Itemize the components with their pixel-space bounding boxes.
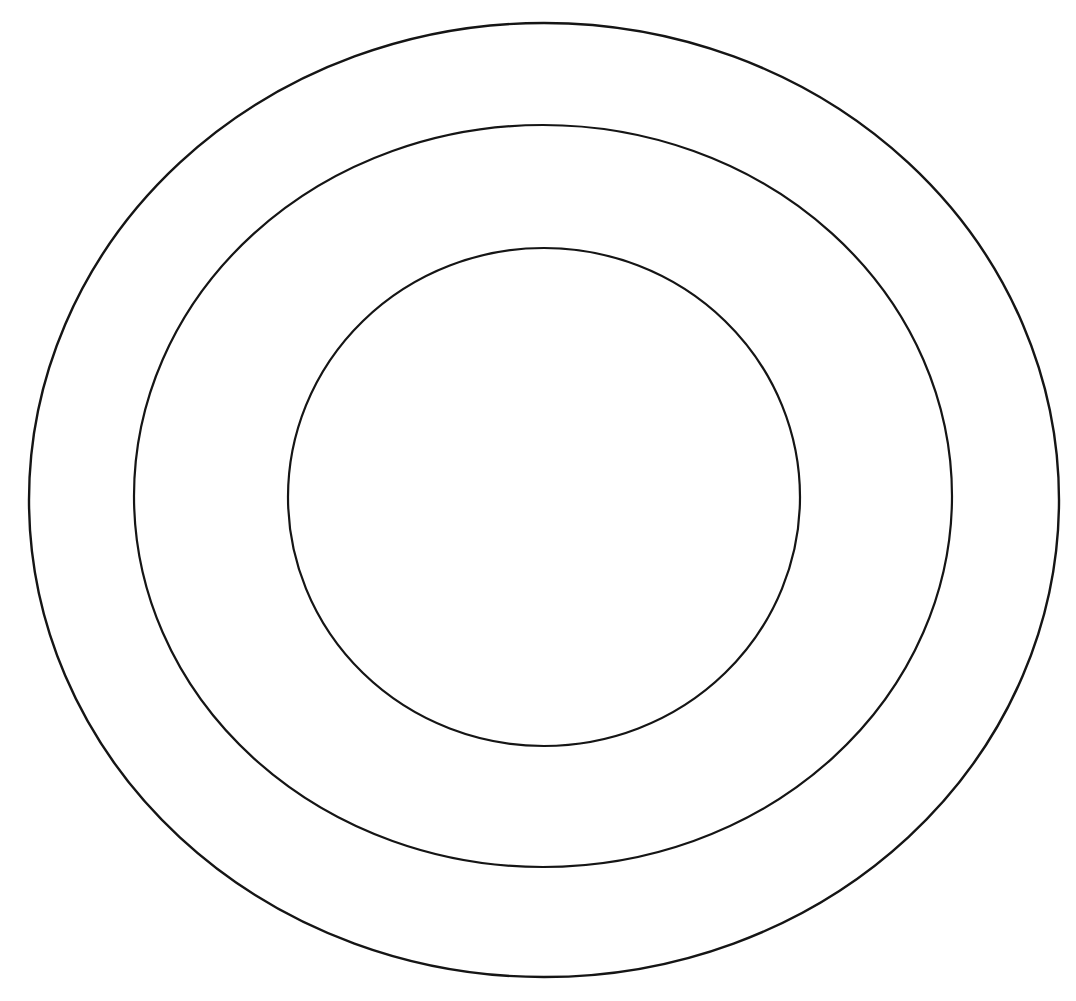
background-rect	[0, 0, 1076, 1001]
concentric-circles-figure	[0, 0, 1076, 1001]
drawing-canvas	[0, 0, 1076, 1001]
